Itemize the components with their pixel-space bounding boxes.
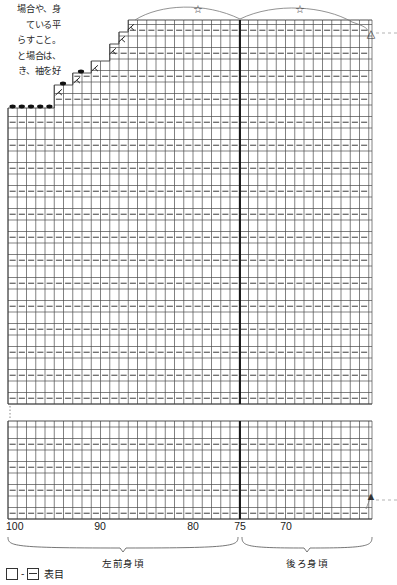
axis-tick-100: 100 bbox=[6, 520, 24, 532]
axis-tick-80: 80 bbox=[187, 520, 199, 532]
knit-box-dash-icon bbox=[27, 568, 39, 580]
knitting-chart bbox=[0, 0, 397, 585]
star-left-icon: ☆ bbox=[193, 4, 203, 15]
section-label-back-body: 後ろ身頃 bbox=[286, 556, 328, 570]
triangle-open-icon: △ bbox=[367, 28, 375, 39]
knit-box-icon bbox=[6, 568, 18, 580]
triangle-filled-icon: ▲ bbox=[366, 491, 377, 502]
axis-tick-70: 70 bbox=[280, 520, 292, 532]
legend-separator: - bbox=[21, 568, 24, 579]
legend-label: 表目 bbox=[44, 566, 64, 581]
chart-canvas bbox=[0, 0, 397, 585]
axis-tick-75: 75 bbox=[234, 520, 246, 532]
legend: - 表目 bbox=[6, 566, 64, 581]
axis-tick-90: 90 bbox=[94, 520, 106, 532]
section-label-left-front-body: 左前身頃 bbox=[102, 556, 144, 570]
star-right-icon: ☆ bbox=[295, 4, 305, 15]
